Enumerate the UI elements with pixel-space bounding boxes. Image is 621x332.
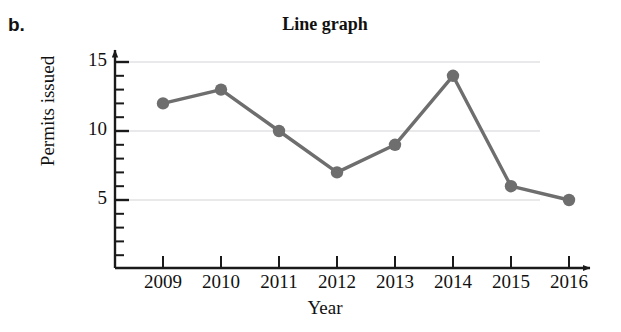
x-tick-label: 2016 — [537, 271, 601, 293]
x-tick-label: 2015 — [479, 271, 543, 293]
x-tick-label: 2014 — [421, 271, 485, 293]
data-point — [563, 194, 575, 206]
data-point — [331, 166, 343, 178]
gridlines-group — [115, 62, 540, 200]
x-tick-label: 2013 — [363, 271, 427, 293]
x-tick-label: 2010 — [189, 271, 253, 293]
y-tick-marks-group — [115, 62, 129, 255]
chart-figure: b. Line graph Permits issued Year 51015 … — [0, 0, 621, 332]
data-point — [273, 125, 285, 137]
y-tick-label: 15 — [63, 49, 107, 71]
x-tick-label: 2012 — [305, 271, 369, 293]
data-point — [447, 70, 459, 82]
axes-group — [115, 50, 590, 268]
x-tick-label: 2011 — [247, 271, 311, 293]
y-tick-label: 10 — [63, 118, 107, 140]
data-points-group — [157, 70, 575, 207]
data-point — [157, 97, 169, 109]
y-tick-label: 5 — [63, 187, 107, 209]
x-tick-label: 2009 — [131, 271, 195, 293]
data-point — [215, 83, 227, 95]
data-point — [505, 180, 517, 192]
data-point — [389, 139, 401, 151]
x-tick-marks-group — [163, 256, 569, 268]
